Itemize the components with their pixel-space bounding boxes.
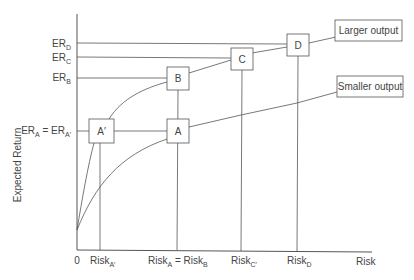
point-c: C: [231, 48, 253, 70]
risk-return-diagram: A′ A B C D Larger output Smaller output …: [0, 0, 414, 280]
point-a-prime: A′: [89, 119, 114, 143]
point-a-prime-label: A′: [97, 126, 106, 137]
guide-risk-a-b: [177, 90, 178, 250]
point-c-label: C: [238, 54, 245, 65]
point-a-label: A: [175, 126, 182, 137]
smaller-output-label: Smaller output: [338, 81, 403, 92]
point-d-label: D: [294, 40, 301, 51]
y-tick-er-a: ERA = ERA′: [21, 125, 72, 138]
guide-er-d: [77, 43, 287, 44]
larger-output-label: Larger output: [339, 25, 399, 36]
x-tick-risk-c: RiskC′: [231, 255, 258, 268]
y-tick-er-c: ERC: [52, 52, 71, 65]
guide-er-c: [77, 57, 231, 58]
x-tick-risk-a-prime: RiskA′: [90, 255, 116, 268]
x-axis-title: Risk: [356, 256, 376, 267]
point-b: B: [167, 67, 189, 90]
point-b-label: B: [175, 73, 182, 84]
point-a: A: [167, 119, 189, 143]
point-d: D: [287, 34, 309, 56]
x-tick-risk-d: RiskD: [287, 255, 312, 268]
y-axis-title: Expected Return: [12, 128, 23, 203]
x-axis: [77, 250, 372, 252]
y-tick-er-d: ERD: [52, 38, 71, 51]
x-tick-risk-a-b: RiskA = RiskB: [148, 255, 208, 268]
guide-risk-d: [297, 56, 298, 251]
guide-risk-c: [241, 70, 242, 251]
origin-label: 0: [74, 255, 80, 266]
larger-output-label-box: Larger output: [335, 20, 402, 41]
y-tick-er-b: ERB: [52, 72, 71, 85]
smaller-output-label-box: Smaller output: [337, 76, 403, 97]
